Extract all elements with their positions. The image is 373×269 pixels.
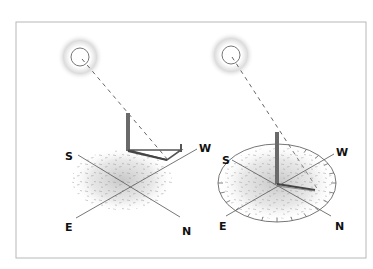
- gnomon-stick: [275, 132, 279, 184]
- compass-label-south: S: [222, 155, 230, 166]
- sun-icon: [57, 34, 103, 80]
- sundial-illustration: S W E N S W E N: [0, 0, 373, 269]
- compass-label-west: W: [199, 143, 211, 154]
- compass-label-south: S: [65, 151, 73, 162]
- compass-label-east: E: [65, 222, 73, 233]
- compass-label-east: E: [219, 221, 227, 232]
- compass-label-west: W: [336, 147, 348, 158]
- sun-icon: [208, 32, 254, 78]
- compass-label-north: N: [182, 226, 191, 237]
- gnomon-stick: [126, 113, 130, 151]
- compass-label-north: N: [335, 221, 344, 232]
- shadow-marker: [180, 144, 182, 152]
